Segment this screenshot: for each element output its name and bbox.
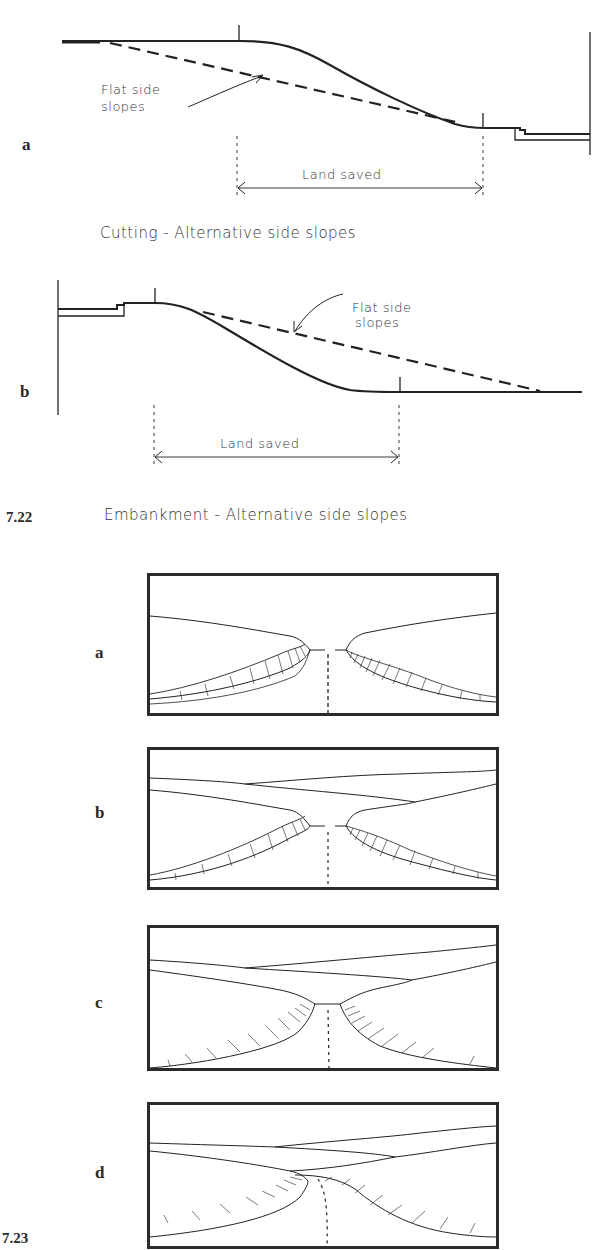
panel-label-b: b [95,803,104,823]
panel-label-d: d [95,1163,104,1183]
panel-label-a: a [95,643,104,663]
diagram-label-a: a [22,135,31,155]
perspective-panel-a [147,573,499,716]
flat-side-slopes-note-line2: slopes [101,100,145,114]
panel-label-c: c [95,993,103,1013]
figure-number-7-23: 7.23 [2,1230,28,1247]
steep-cutting-layered-drawing [150,750,496,887]
cutting-section-drawing [0,0,592,240]
perspective-panel-b [147,747,499,890]
flat-side-slopes-note-b-line1: Flat side [352,301,411,315]
perspective-panel-d [147,1102,499,1249]
diagram-label-b: b [20,382,29,402]
embankment-caption: Embankment - Alternative side slopes [104,506,407,524]
land-saved-label-b: Land saved [220,437,300,451]
perspective-panel-c [147,925,499,1071]
flat-side-slopes-note-line1: Flat side [101,83,160,97]
steep-cutting-drawing [150,576,496,713]
curving-road-cutting-drawing [150,1105,496,1246]
land-saved-label-a: Land saved [302,168,382,182]
flat-side-slopes-note-b-line2: slopes [355,316,399,330]
figure-number-7-22: 7.22 [6,509,32,526]
flattened-cutting-drawing [150,928,496,1068]
